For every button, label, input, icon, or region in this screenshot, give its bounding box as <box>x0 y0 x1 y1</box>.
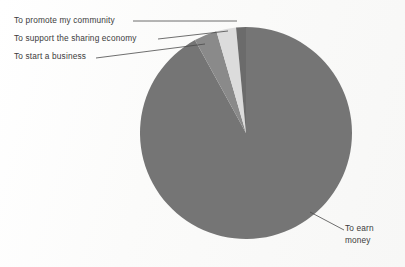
slice-label-start-a-business: To start a business <box>14 51 86 62</box>
pie-slice-group <box>140 27 352 239</box>
slice-label-earn-money-line2: money <box>345 235 371 245</box>
leader-earn <box>310 212 344 230</box>
pie-chart-figure: To promote my community To support the s… <box>0 0 405 267</box>
slice-label-earn-money: To earn money <box>345 222 397 247</box>
slice-label-earn-money-line1: To earn <box>345 223 374 233</box>
slice-label-support-sharing-economy: To support the sharing economy <box>14 33 137 44</box>
slice-label-promote-my-community: To promote my community <box>14 15 115 26</box>
